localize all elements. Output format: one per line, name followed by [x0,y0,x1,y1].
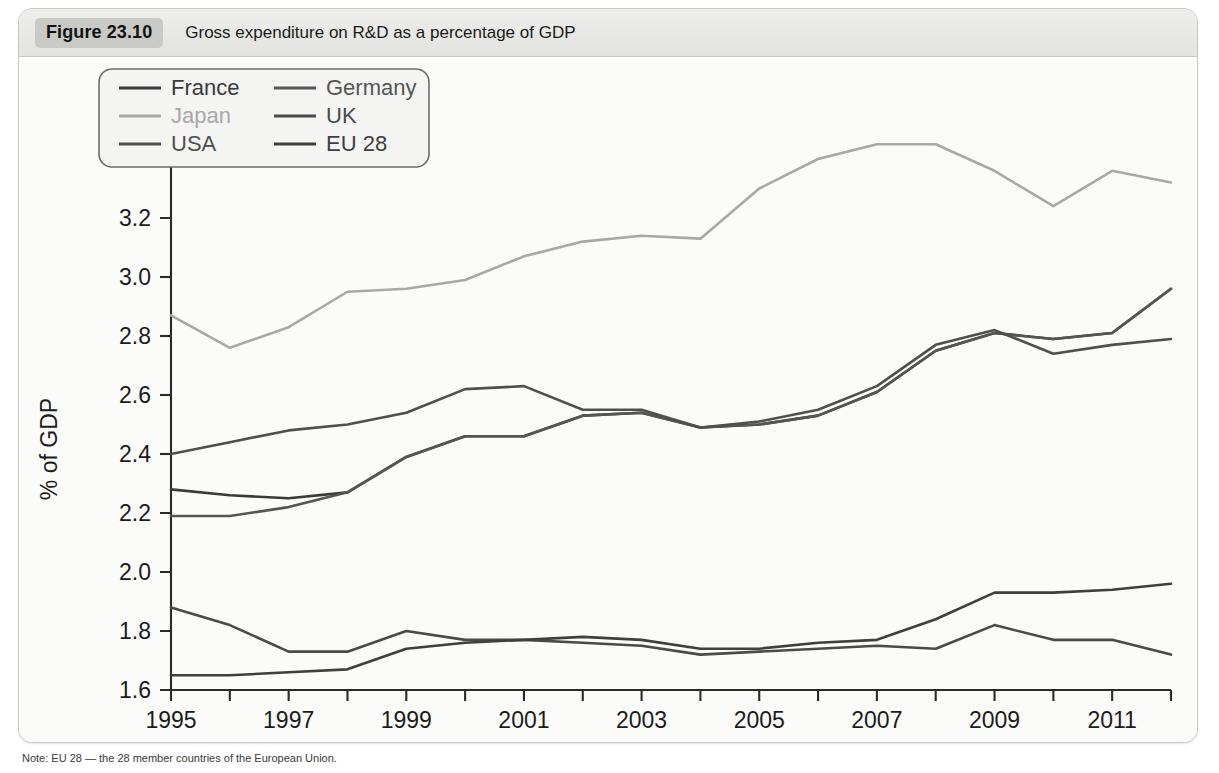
series-line-usa [171,330,1171,454]
x-tick-label: 1995 [145,707,196,733]
series-line-uk [171,607,1171,654]
x-tick-label: 2005 [734,707,785,733]
figure-header: Figure 23.10 Gross expenditure on R&D as… [19,9,1197,57]
series-line-eu-28 [171,584,1171,675]
y-tick-label: 2.6 [119,382,151,408]
series-line-france [171,289,1171,498]
figure-card: Figure 23.10 Gross expenditure on R&D as… [18,8,1198,743]
x-tick-label: 1999 [381,707,432,733]
y-tick-label: 2.4 [119,441,151,467]
series-lines [171,144,1171,675]
x-tick-label: 2003 [616,707,667,733]
figure-note: Note: EU 28 — the 28 member countries of… [22,752,337,764]
x-tick-label: 2009 [969,707,1020,733]
y-tick-label: 1.6 [119,677,151,703]
y-tick-label: 2.0 [119,559,151,585]
x-tick-label: 2007 [851,707,902,733]
y-tick-label: 3.2 [119,205,151,231]
y-tick-label: 3.0 [119,264,151,290]
x-tick-label: 2011 [1087,707,1136,733]
chart-legend: FranceGermanyJapanUKUSAEU 28 [99,69,429,167]
chart-plot-area: % of GDP 1.61.82.02.22.42.62.83.03.23.43… [19,57,1197,743]
y-tick-label: 1.8 [119,618,151,644]
legend-label-usa: USA [171,131,217,156]
x-axis-ticks: 199519971999200120032005200720092011 [145,690,1171,733]
legend-label-uk: UK [326,103,357,128]
x-tick-label: 2001 [498,707,549,733]
series-line-germany [171,289,1171,516]
y-axis-ticks: 1.61.82.02.22.42.62.83.03.23.43.6 [119,87,171,703]
legend-label-germany: Germany [326,75,416,100]
figure-caption: Gross expenditure on R&D as a percentage… [185,23,575,43]
x-tick-label: 1997 [263,707,314,733]
legend-label-france: France [171,75,239,100]
legend-label-eu-28: EU 28 [326,131,387,156]
y-tick-label: 2.2 [119,500,151,526]
line-chart: % of GDP 1.61.82.02.22.42.62.83.03.23.43… [19,57,1197,743]
legend-label-japan: Japan [171,103,231,128]
y-axis-title: % of GDP [36,398,62,500]
y-tick-label: 2.8 [119,323,151,349]
figure-number-badge: Figure 23.10 [35,18,163,48]
series-line-japan [171,144,1171,348]
